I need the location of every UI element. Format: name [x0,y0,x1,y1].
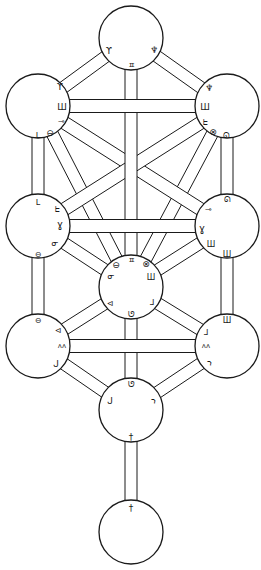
glyph-icon: ᖶ [55,205,60,214]
glyph-icon: ⊗ [209,127,217,137]
glyph-icon: ᒍ [53,359,59,369]
glyph-icon: ϒ [57,82,63,92]
glyph-icon: Ш [207,240,216,249]
glyph-icon: ㅍ [128,61,135,70]
glyph-icon: ᒍ [107,396,113,406]
glyph-icon: Ш [200,102,210,112]
glyph-icon: ⊲ [55,326,62,335]
glyph-icon: ϒ [106,46,112,56]
glyph-icon: ⊸ [205,205,212,214]
glyph-icon: ᓂ [52,239,59,248]
path-geburah-hod [32,252,44,320]
glyph-icon: ♆ [205,83,213,93]
glyph-icon: ᒧ [204,328,209,337]
glyph-icon: ⊖ [35,250,42,259]
path-binah-geburah [32,132,44,200]
glyph-icon: † [129,432,134,442]
path-binah-chokmah [64,100,201,113]
glyph-icon: ᒧ [150,298,155,307]
glyph-icon: ♆ [150,45,158,55]
path-yesod-malkuth [125,436,137,506]
glyph-icon: ᒪ [36,198,41,207]
glyph-icon: ᒪ [36,131,41,140]
glyph-icon: ᴧᴧ [58,342,66,350]
glyph-icon: ⊖ [112,260,120,270]
glyph-icon: Ш [223,316,232,325]
glyph-icon: ⊸ [58,117,65,126]
glyph-icon: ᘎ [128,380,135,389]
glyph-icon: ⊗ [142,259,150,269]
glyph-icon: ɣ [199,223,205,234]
glyph-icon: ⊖ [35,316,42,325]
glyph-icon: ᘏ [224,195,231,204]
tree-of-life-diagram: ϒ♆ㅍϒШ⊸⊖ᒪ♆Шᖶ⊗ᘏᒪᖶɣᓂ⊖ᘏ⊸ɣШШㅍ⊖⊗ᓂШ⊲ᒧᘎ⊖⊲ᴧᴧᒍШᒧᴧᴧ… [0,0,261,570]
glyph-icon: ᖶ [203,118,208,127]
glyph-icon: ᴧᴧ [202,342,210,350]
glyph-icon: ኀ [151,397,156,406]
glyph-icon: ⊲ [107,299,114,308]
path-chokmah-chesed [221,132,233,200]
path-chesed-netzach [221,252,233,320]
glyph-icon: ɣ [57,219,63,230]
glyph-icon: ᘏ [223,131,230,140]
path-geburah-chesed [64,220,201,233]
path-hod-netzach [64,340,201,353]
glyph-icon: Ш [147,273,156,282]
glyph-icon: ኀ [207,359,212,368]
tree-of-life-svg: ϒ♆ㅍϒШ⊸⊖ᒪ♆Шᖶ⊗ᘏᒪᖶɣᓂ⊖ᘏ⊸ɣШШㅍ⊖⊗ᓂШ⊲ᒧᘎ⊖⊲ᴧᴧᒍШᒧᴧᴧ… [0,0,261,570]
glyph-icon: Ш [223,250,232,259]
glyph-icon: ᓂ [108,272,115,281]
glyph-icon: † [129,503,134,513]
glyph-icon: ᘎ [128,310,135,319]
glyph-icon: ㅍ [128,256,135,265]
glyph-icon: ⊖ [46,128,54,138]
glyph-icon: Ш [57,102,67,112]
